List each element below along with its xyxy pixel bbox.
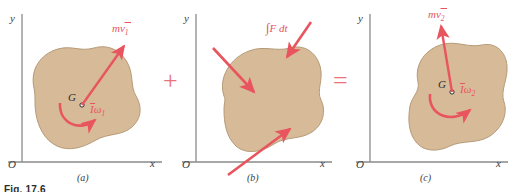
axis-label-x-b: x <box>319 157 325 169</box>
panel-a: y x O G <box>8 12 162 170</box>
centroid-label-a: G <box>68 91 76 103</box>
axis-label-y-c: y <box>357 12 363 24</box>
equals-operator: = <box>333 68 348 94</box>
label-mv2-base: mv <box>428 8 441 20</box>
rigid-body-shape-c <box>409 43 507 150</box>
svg-text:∫F dt: ∫F dt <box>265 20 289 36</box>
origin-label-c: O <box>356 158 364 170</box>
svg-text:mv1: mv1 <box>112 22 129 37</box>
panel-caption-c: (c) <box>420 172 431 183</box>
centroid-label-c: G <box>438 78 446 90</box>
label-iomega1-sub: 1 <box>101 109 105 118</box>
plus-operator: + <box>163 68 178 94</box>
panel-b: y x O <box>182 12 332 175</box>
label-impulse: F dt <box>269 22 289 34</box>
label-mv2-sub: 2 <box>441 14 445 23</box>
label-mv1-base: mv <box>112 22 125 34</box>
figure-number-caption: Fig. 17.6 <box>4 184 46 192</box>
impulse-label-b: ∫F dt <box>265 20 289 36</box>
impulse-momentum-figure: y x O G y x O <box>0 0 514 192</box>
linear-momentum-label-c: mv2 <box>428 8 447 23</box>
panel-c: y x O G <box>356 12 508 170</box>
rigid-body-shape-b <box>222 47 323 152</box>
figure-canvas: y x O G y x O <box>0 0 514 192</box>
label-iomega2-sub: 2 <box>471 89 475 98</box>
panel-caption-a: (a) <box>77 172 89 183</box>
linear-momentum-label-a: mv1 <box>112 22 131 37</box>
label-mv1-sub: 1 <box>125 28 129 37</box>
origin-label-b: O <box>182 158 190 170</box>
panel-caption-b: (b) <box>247 172 259 183</box>
svg-text:mv2: mv2 <box>428 8 445 23</box>
axis-label-y-b: y <box>183 12 189 24</box>
axis-label-x-a: x <box>149 157 155 169</box>
axis-label-x-c: x <box>495 157 501 169</box>
origin-label-a: O <box>8 158 16 170</box>
axis-label-y-a: y <box>9 12 15 24</box>
